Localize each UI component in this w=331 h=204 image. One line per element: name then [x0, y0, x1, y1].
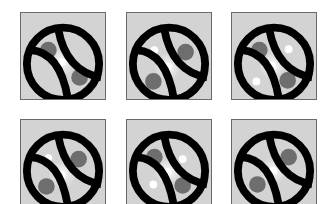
ball-tile[interactable] — [126, 119, 212, 204]
ball-tile[interactable] — [231, 119, 317, 204]
ball-icon — [232, 13, 316, 99]
ball-icon — [21, 13, 105, 99]
ball-icon — [127, 120, 211, 204]
ball-tile[interactable] — [20, 12, 106, 100]
ball-tile[interactable] — [126, 12, 212, 100]
ball-icon — [232, 120, 316, 204]
ball-icon — [127, 13, 211, 99]
ball-tile[interactable] — [20, 119, 106, 204]
ball-icon — [21, 120, 105, 204]
ball-tile[interactable] — [231, 12, 317, 100]
